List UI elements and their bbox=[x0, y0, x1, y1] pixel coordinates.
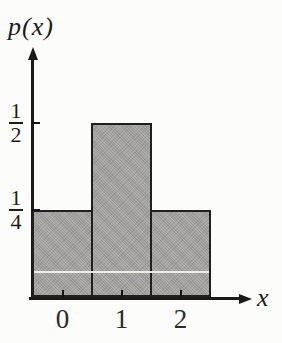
y-tick-1-4 bbox=[32, 209, 40, 211]
scan-line-artifact bbox=[34, 271, 209, 273]
y-tick-label-1-2: 12 bbox=[3, 102, 29, 144]
x-tick-0 bbox=[62, 290, 64, 297]
y-tick-1-2 bbox=[32, 122, 40, 124]
x-tick-1 bbox=[121, 290, 123, 297]
x-tick-label-0: 0 bbox=[48, 304, 78, 334]
bar-x2 bbox=[150, 210, 211, 297]
x-tick-2 bbox=[180, 290, 182, 297]
pmf-figure: p(x) x 0121214 bbox=[0, 0, 282, 343]
y-tick-label-1-4: 14 bbox=[3, 189, 29, 231]
bar-x0 bbox=[32, 210, 93, 297]
x-tick-label-1: 1 bbox=[107, 304, 137, 334]
x-tick-label-2: 2 bbox=[166, 304, 196, 334]
plot-area: 0121214 bbox=[0, 0, 282, 343]
